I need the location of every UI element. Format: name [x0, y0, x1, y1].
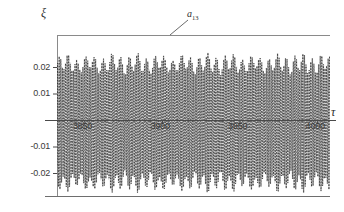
x-tick-label: 4000 [306, 121, 325, 131]
chart-plot-area [0, 0, 344, 212]
x-tick-label: 3900 [150, 121, 169, 131]
annotation-leader-line [170, 20, 188, 35]
y-tick-label: 0.01 [8, 88, 50, 98]
y-tick-label: -0.01 [8, 141, 50, 151]
x-tick-label: 3950 [228, 121, 247, 131]
y-axis-label: ξ [41, 6, 46, 21]
annotation-label-a13: a13 [187, 8, 199, 21]
x-axis-label: τ [331, 105, 335, 120]
y-tick-label: 0.02 [8, 62, 50, 72]
annotation-subscript-text: 13 [192, 14, 199, 21]
waveform-trace [57, 53, 330, 193]
x-tick-label: 3850 [73, 121, 92, 131]
y-tick-label: -0.02 [8, 168, 50, 178]
chart-figure: ξ τ a13 38503900395040000.020.01-0.01-0.… [0, 0, 344, 212]
